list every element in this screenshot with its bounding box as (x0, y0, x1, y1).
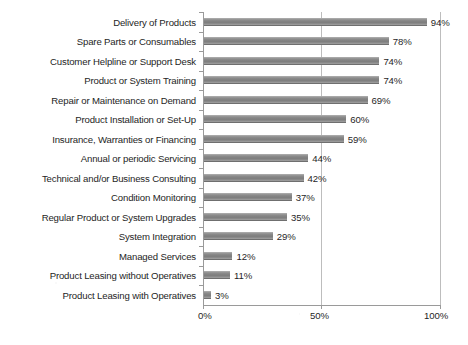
bar (204, 252, 232, 260)
bar-row: Condition Monitoring37% (0, 188, 468, 208)
x-tick-mark-50 (321, 305, 322, 309)
bar (204, 291, 211, 299)
y-tick-mark (199, 71, 203, 72)
x-tick-mark-0 (203, 305, 204, 309)
bar-value-label: 3% (215, 289, 229, 300)
bar (204, 115, 346, 123)
category-label: Annual or periodic Servicing (0, 153, 196, 164)
bar-row: Customer Helpline or Support Desk74% (0, 51, 468, 71)
bar-row: Product Leasing without Operatives11% (0, 266, 468, 286)
category-label: Product Installation or Set-Up (0, 114, 196, 125)
y-tick-mark (199, 12, 203, 13)
category-label: Product Leasing with Operatives (0, 289, 196, 300)
bar (204, 154, 308, 162)
bar-chart: Delivery of Products94%Spare Parts or Co… (0, 0, 468, 345)
bar (204, 232, 273, 240)
bar-value-label: 69% (372, 94, 391, 105)
bar-row: Managed Services12% (0, 246, 468, 266)
x-axis-line (203, 305, 441, 306)
x-tick-label-0: 0% (198, 310, 212, 321)
y-tick-mark (199, 149, 203, 150)
bar-value-label: 35% (291, 211, 310, 222)
category-label: System Integration (0, 231, 196, 242)
y-tick-mark (199, 51, 203, 52)
bar (204, 37, 389, 45)
bar-row: Spare Parts or Consumables78% (0, 32, 468, 52)
y-tick-mark (199, 168, 203, 169)
bar-row: Regular Product or System Upgrades35% (0, 207, 468, 227)
bar (204, 76, 379, 84)
bar (204, 57, 379, 65)
category-label: Regular Product or System Upgrades (0, 211, 196, 222)
bar (204, 213, 287, 221)
bar-row: Product Leasing with Operatives3% (0, 285, 468, 305)
y-tick-mark (199, 110, 203, 111)
bar (204, 96, 368, 104)
y-tick-mark (199, 266, 203, 267)
bar-row: Delivery of Products94% (0, 12, 468, 32)
y-tick-mark (199, 207, 203, 208)
bar (204, 193, 292, 201)
y-tick-mark (199, 285, 203, 286)
bar-value-label: 29% (277, 231, 296, 242)
bar-value-label: 94% (431, 16, 450, 27)
bar-row: Annual or periodic Servicing44% (0, 149, 468, 169)
bar (204, 18, 427, 26)
bar-value-label: 60% (350, 114, 369, 125)
bar-row: Repair or Maintenance on Demand69% (0, 90, 468, 110)
category-label: Repair or Maintenance on Demand (0, 94, 196, 105)
y-tick-mark (199, 32, 203, 33)
bar-value-label: 11% (234, 270, 252, 281)
bar-value-label: 37% (296, 192, 315, 203)
y-tick-mark (199, 188, 203, 189)
bar-value-label: 12% (236, 250, 255, 261)
category-label: Delivery of Products (0, 16, 196, 27)
bar-rows: Delivery of Products94%Spare Parts or Co… (0, 12, 468, 305)
bar-row: Product or System Training74% (0, 71, 468, 91)
bar-value-label: 59% (348, 133, 367, 144)
bar (204, 135, 344, 143)
category-label: Customer Helpline or Support Desk (0, 55, 196, 66)
bar-value-label: 44% (312, 153, 331, 164)
bar-value-label: 74% (383, 75, 402, 86)
bar-row: System Integration29% (0, 227, 468, 247)
bar-value-label: 78% (393, 36, 412, 47)
bar (204, 271, 230, 279)
category-label: Condition Monitoring (0, 192, 196, 203)
category-label: Spare Parts or Consumables (0, 36, 196, 47)
category-label: Managed Services (0, 250, 196, 261)
category-label: Product or System Training (0, 75, 196, 86)
bar-row: Technical and/or Business Consulting42% (0, 168, 468, 188)
category-label: Insurance, Warranties or Financing (0, 133, 196, 144)
bar-value-label: 42% (308, 172, 327, 183)
y-tick-mark (199, 90, 203, 91)
x-tick-label-50: 50% (310, 310, 329, 321)
bar-value-label: 74% (383, 55, 402, 66)
y-tick-mark (199, 129, 203, 130)
bar (204, 174, 304, 182)
bar-row: Product Installation or Set-Up60% (0, 110, 468, 130)
category-label: Product Leasing without Operatives (0, 270, 196, 281)
y-tick-mark (199, 246, 203, 247)
x-tick-mark-100 (440, 305, 441, 309)
x-tick-label-100: 100% (424, 310, 448, 321)
category-label: Technical and/or Business Consulting (0, 172, 196, 183)
bar-row: Insurance, Warranties or Financing59% (0, 129, 468, 149)
y-tick-mark (199, 227, 203, 228)
